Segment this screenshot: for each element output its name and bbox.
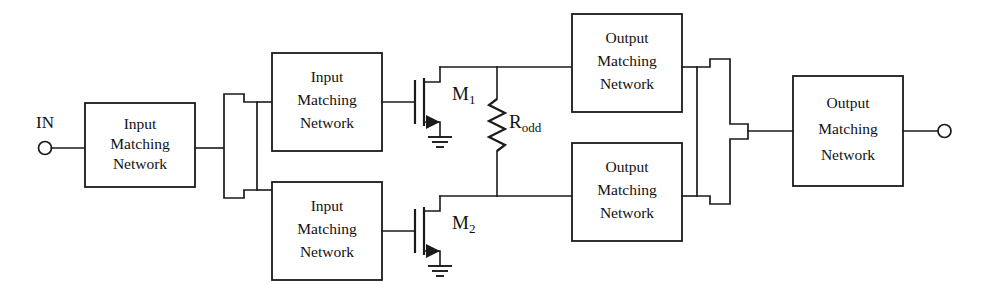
transistor-bottom-label: M2 bbox=[452, 212, 475, 236]
block-input-stage-line2: Matching bbox=[110, 135, 170, 152]
input-power-splitter-body bbox=[224, 94, 257, 198]
output-terminal[interactable] bbox=[938, 125, 951, 138]
block-output-bottom[interactable]: Output Matching Network bbox=[572, 143, 682, 241]
resistor-odd-label: Rodd bbox=[509, 111, 542, 135]
block-input-top-line2: Matching bbox=[297, 91, 357, 108]
ground-symbol-m1 bbox=[428, 137, 452, 147]
block-output-stage-line2: Matching bbox=[818, 120, 878, 137]
resistor-odd-group[interactable]: Rodd bbox=[489, 67, 542, 196]
ground-symbol-m2 bbox=[428, 266, 452, 276]
block-input-bottom-line1: Input bbox=[311, 197, 344, 214]
output-power-combiner[interactable] bbox=[697, 59, 793, 204]
block-output-stage-line1: Output bbox=[826, 94, 870, 111]
block-input-stage-line1: Input bbox=[124, 115, 157, 132]
input-port-label: IN bbox=[36, 113, 54, 132]
schematic-svg: IN Input Matching Network Input Matching… bbox=[0, 0, 985, 284]
block-output-stage-line3: Network bbox=[821, 146, 875, 163]
resistor-odd-zigzag bbox=[489, 99, 505, 151]
block-input-bottom[interactable]: Input Matching Network bbox=[272, 182, 382, 280]
input-port-group: IN bbox=[36, 113, 85, 155]
block-output-bottom-line2: Matching bbox=[597, 181, 657, 198]
block-input-bottom-line2: Matching bbox=[297, 220, 357, 237]
block-input-top-line1: Input bbox=[311, 68, 344, 85]
transistor-top-group[interactable]: M1 bbox=[382, 67, 475, 147]
transistor-top-source-arrow bbox=[426, 115, 440, 129]
block-input-bottom-line3: Network bbox=[300, 243, 354, 260]
input-terminal[interactable] bbox=[39, 142, 52, 155]
block-output-top-line1: Output bbox=[605, 29, 649, 46]
block-input-top-line3: Network bbox=[300, 114, 354, 131]
circuit-diagram-canvas: IN Input Matching Network Input Matching… bbox=[0, 0, 985, 284]
transistor-top-drain-lead bbox=[424, 67, 440, 82]
transistor-bottom-drain-lead bbox=[424, 196, 440, 211]
transistor-bottom-group[interactable]: M2 bbox=[382, 196, 475, 276]
block-output-stage[interactable]: Output Matching Network bbox=[793, 76, 903, 186]
block-input-top[interactable]: Input Matching Network bbox=[272, 53, 382, 151]
block-output-top-line3: Network bbox=[600, 75, 654, 92]
block-input-stage-line3: Network bbox=[113, 155, 167, 172]
output-power-combiner-body bbox=[697, 59, 748, 204]
block-output-bottom-line1: Output bbox=[605, 158, 649, 175]
transistor-top-label: M1 bbox=[452, 83, 475, 107]
block-output-bottom-line3: Network bbox=[600, 204, 654, 221]
output-port-group bbox=[903, 125, 951, 138]
block-output-top[interactable]: Output Matching Network bbox=[572, 14, 682, 112]
input-power-splitter[interactable] bbox=[224, 94, 272, 198]
block-input-stage[interactable]: Input Matching Network bbox=[85, 103, 195, 187]
block-output-top-line2: Matching bbox=[597, 52, 657, 69]
transistor-bottom-source-arrow bbox=[426, 244, 440, 258]
